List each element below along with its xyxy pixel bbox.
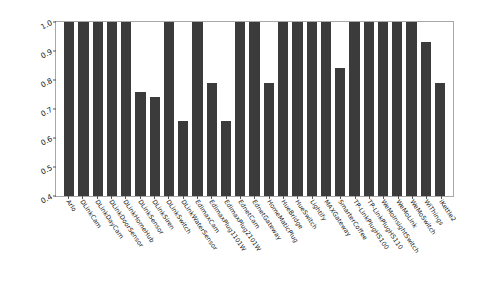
bar-slot <box>62 22 76 196</box>
bar-slot <box>319 22 333 196</box>
y-tick-label: 1.0 <box>39 18 54 31</box>
x-tick-slot: DLinkCam <box>75 199 89 285</box>
bar-slot <box>305 22 319 196</box>
bar-slot <box>176 22 190 196</box>
y-tick-label: 0.8 <box>39 76 54 89</box>
bar <box>135 92 145 196</box>
x-tick-slot: WiThings <box>419 199 433 285</box>
plot-area: 0.40.50.60.70.80.91.0 <box>55 21 454 197</box>
bar-chart-figure: F1-Score 0.40.50.60.70.80.91.0 ArloDLink… <box>0 0 479 287</box>
bar <box>292 22 302 196</box>
bar-slot <box>133 22 147 196</box>
bar-slot <box>219 22 233 196</box>
x-tick-slot: DLinkDoorSensor <box>104 199 118 285</box>
x-tick-slot: Lightify <box>305 199 319 285</box>
bar <box>435 83 445 196</box>
bar <box>406 22 416 196</box>
x-tick-slot: HomeMaticPlug <box>262 199 276 285</box>
bar <box>321 22 331 196</box>
bar-slot <box>119 22 133 196</box>
x-tick-slot: DLinkHomeHub <box>118 199 132 285</box>
bar-slot <box>419 22 433 196</box>
x-tick-slot: iKettle2 <box>434 199 448 285</box>
bar-slot <box>276 22 290 196</box>
bar-slot <box>233 22 247 196</box>
y-tick-label: 0.7 <box>39 105 54 118</box>
x-tick-label: iKettle2 <box>438 198 458 222</box>
x-tick-slot: WeMoLink <box>391 199 405 285</box>
x-tick-slot: DLinkWaterSensor <box>176 199 190 285</box>
bar <box>150 97 160 196</box>
bar <box>93 22 103 196</box>
bar-slot <box>148 22 162 196</box>
x-tick-slot: EdimaxPlug1101W <box>204 199 218 285</box>
bar <box>192 22 202 196</box>
x-tick-slot: DLinkSwitch <box>161 199 175 285</box>
bar <box>278 22 288 196</box>
x-axis-ticks: ArloDLinkCamDLinkDayCamDLinkDoorSensorDL… <box>55 199 454 285</box>
bar <box>378 22 388 196</box>
bar <box>121 22 131 196</box>
bar-series <box>56 22 453 196</box>
bar <box>307 22 317 196</box>
bar <box>107 22 117 196</box>
bar <box>392 22 402 196</box>
bar <box>349 22 359 196</box>
y-tick-label: 0.4 <box>39 192 54 205</box>
bar <box>335 68 345 196</box>
bar <box>364 22 374 196</box>
x-tick-slot: SmarterCoffee <box>333 199 347 285</box>
x-tick-slot: HueBridge <box>276 199 290 285</box>
x-tick-slot: EdimaxPlug2101W <box>219 199 233 285</box>
x-tick-slot: TP-LinkPlugHS100 <box>348 199 362 285</box>
bar-slot <box>433 22 447 196</box>
y-tick-label: 0.5 <box>39 163 54 176</box>
y-tick-label: 0.9 <box>39 47 54 60</box>
bar-slot <box>376 22 390 196</box>
x-tick-slot: DLinkSensor <box>133 199 147 285</box>
bar <box>421 42 431 196</box>
bar-slot <box>76 22 90 196</box>
bar <box>221 121 231 196</box>
bar-slot <box>105 22 119 196</box>
bar <box>207 83 217 196</box>
bar-slot <box>91 22 105 196</box>
x-tick-slot: EdnetGateway <box>247 199 261 285</box>
x-tick-slot: DLinkSiren <box>147 199 161 285</box>
bar <box>78 22 88 196</box>
x-tick-slot: Arlo <box>61 199 75 285</box>
bar-slot <box>162 22 176 196</box>
x-tick-slot: DLinkDayCam <box>90 199 104 285</box>
x-tick-slot: HueSwitch <box>290 199 304 285</box>
bar-slot <box>290 22 304 196</box>
x-tick-slot: MAXGateway <box>319 199 333 285</box>
x-tick-slot: EdnetCam <box>233 199 247 285</box>
bar-slot <box>247 22 261 196</box>
bar-slot <box>390 22 404 196</box>
x-tick-slot: TP-LinkPlugHS110 <box>362 199 376 285</box>
x-tick-slot: WeMoInsightSwitch <box>376 199 390 285</box>
bar-slot <box>404 22 418 196</box>
bar-slot <box>262 22 276 196</box>
bar-slot <box>347 22 361 196</box>
bar-slot <box>190 22 204 196</box>
y-tick-label: 0.6 <box>39 134 54 147</box>
bar <box>264 83 274 196</box>
bar <box>249 22 259 196</box>
bar <box>164 22 174 196</box>
bar <box>178 121 188 196</box>
bar-slot <box>362 22 376 196</box>
bar-slot <box>205 22 219 196</box>
x-tick-slot: EdimaxCam <box>190 199 204 285</box>
x-tick-slot: WeMoSwitch <box>405 199 419 285</box>
bar <box>235 22 245 196</box>
bar-slot <box>333 22 347 196</box>
bar <box>64 22 74 196</box>
